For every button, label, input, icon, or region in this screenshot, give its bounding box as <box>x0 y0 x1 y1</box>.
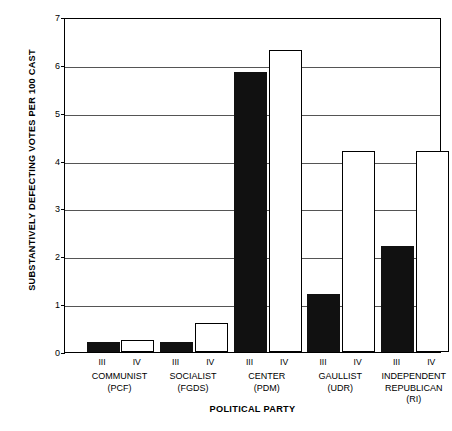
x-group-abbr: (PCF) <box>92 383 148 395</box>
x-group-abbr: (UDR) <box>319 383 363 395</box>
y-tick-label: 3 <box>38 204 60 214</box>
bar <box>342 151 375 352</box>
x-subtick-label: IV <box>133 357 141 367</box>
y-tick-label: 4 <box>38 157 60 167</box>
y-axis-tick-labels: 01234567 <box>34 18 60 353</box>
bar <box>234 72 267 352</box>
x-subtick-label: IV <box>354 357 362 367</box>
x-group-label: COMMUNIST(PCF) <box>92 371 148 394</box>
y-tick-label: 5 <box>38 109 60 119</box>
x-group-name: GAULLIST <box>319 371 363 381</box>
x-group-label: CENTER(PDM) <box>248 371 285 394</box>
x-group-label: INDEPENDENTREPUBLICAN(RI) <box>382 371 447 406</box>
x-subtick-label: III <box>246 357 253 367</box>
x-subtick-label: III <box>393 357 400 367</box>
x-subtick-label: IV <box>206 357 214 367</box>
x-group-label: GAULLIST(UDR) <box>319 371 363 394</box>
x-group-abbr: (PDM) <box>248 383 285 395</box>
y-tick-label: 0 <box>38 348 60 358</box>
x-subtick-label: IV <box>427 357 435 367</box>
x-group-name: SOCIALIST <box>169 371 216 381</box>
y-tick-mark <box>61 353 65 354</box>
bar <box>307 294 340 352</box>
y-tick-label: 7 <box>38 13 60 23</box>
x-subtick-label: III <box>98 357 105 367</box>
bar <box>416 151 449 352</box>
x-group-abbr: (FGDS) <box>169 383 216 395</box>
x-group-name: INDEPENDENTREPUBLICAN <box>382 371 447 394</box>
gridline <box>65 67 440 68</box>
x-subtick-label: III <box>319 357 326 367</box>
y-tick-label: 1 <box>38 300 60 310</box>
bar-chart-figure: SUBSTANTIVELY DEFECTING VOTES PER 100 CA… <box>0 0 452 431</box>
x-group-name: CENTER <box>248 371 285 381</box>
bar <box>121 340 154 352</box>
x-subtick-label: IV <box>280 357 288 367</box>
bar <box>381 246 414 352</box>
y-tick-label: 2 <box>38 252 60 262</box>
x-group-name: COMMUNIST <box>92 371 148 381</box>
y-tick-label: 6 <box>38 61 60 71</box>
plot-area <box>64 18 441 353</box>
x-group-label: SOCIALIST(FGDS) <box>169 371 216 394</box>
x-axis-title: POLITICAL PARTY <box>64 404 441 414</box>
bar <box>269 50 302 352</box>
bar <box>160 342 193 352</box>
bar <box>195 323 228 352</box>
x-subtick-label: III <box>172 357 179 367</box>
bar <box>87 342 120 352</box>
